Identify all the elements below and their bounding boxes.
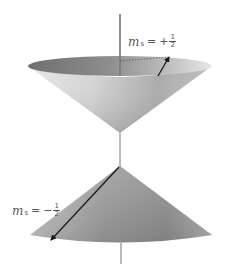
- upper-cone: [28, 14, 212, 133]
- spin-down-label: m s = − 1 2: [12, 203, 60, 218]
- fraction-denominator: 2: [169, 42, 175, 49]
- spin-subscript: s: [140, 41, 144, 48]
- sign: +: [159, 36, 168, 47]
- fraction: 1 2: [53, 203, 59, 218]
- spin-symbol: m: [12, 205, 23, 217]
- spin-subscript: s: [24, 210, 28, 217]
- spin-symbol: m: [128, 36, 139, 48]
- equals-sign: =: [31, 205, 40, 216]
- spin-cones-diagram: [0, 0, 228, 277]
- fraction-denominator: 2: [53, 211, 59, 218]
- equals-sign: =: [147, 36, 156, 47]
- sign: −: [43, 205, 52, 216]
- spin-up-label: m s = + 1 2: [128, 34, 176, 49]
- fraction: 1 2: [169, 34, 175, 49]
